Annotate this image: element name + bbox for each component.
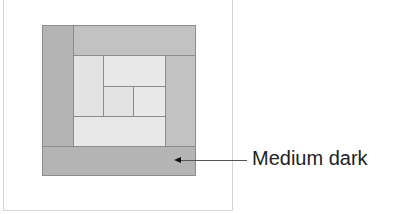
- inner-left: [73, 55, 104, 117]
- left-strip: [42, 25, 74, 147]
- quilt-block: [42, 25, 196, 176]
- inner-bottom: [73, 116, 166, 147]
- inner-right-small: [133, 86, 166, 117]
- bottom-strip: [42, 146, 196, 176]
- center-square: [103, 86, 134, 117]
- arrow-line: [178, 160, 247, 161]
- arrow-head-icon: [174, 157, 181, 163]
- inner-top: [103, 55, 166, 87]
- top-strip: [73, 25, 196, 56]
- right-strip: [165, 55, 196, 147]
- annotation-label: Medium dark: [252, 147, 368, 170]
